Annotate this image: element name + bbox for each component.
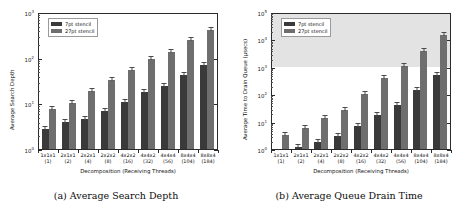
y-minor-tick bbox=[271, 69, 273, 70]
bar-27pt bbox=[88, 91, 95, 149]
legend-b: 7pt stencil 27pt stencil bbox=[281, 18, 331, 37]
error-bar-cap bbox=[421, 48, 426, 49]
error-bar-cap bbox=[322, 115, 327, 116]
bar-7pt bbox=[62, 122, 69, 149]
bar-7pt bbox=[141, 92, 148, 149]
y-minor-tick bbox=[271, 21, 273, 22]
y-minor-tick bbox=[38, 109, 40, 110]
bar-7pt bbox=[200, 65, 207, 149]
y-minor-tick bbox=[271, 45, 273, 46]
y-minor-tick bbox=[271, 96, 273, 97]
bar-7pt bbox=[354, 126, 361, 149]
y-tick-mark bbox=[271, 95, 275, 96]
y-minor-tick bbox=[271, 82, 273, 83]
bar-7pt bbox=[180, 75, 187, 149]
bar-group bbox=[430, 14, 450, 149]
error-bar-cap bbox=[102, 108, 107, 109]
y-minor-tick bbox=[271, 72, 273, 73]
bar-27pt bbox=[321, 118, 328, 149]
caption-a: (a) Average Search Depth bbox=[0, 190, 232, 201]
y-minor-tick bbox=[271, 60, 273, 61]
bar-7pt bbox=[81, 119, 88, 149]
error-bar-cap bbox=[283, 132, 288, 133]
y-minor-tick bbox=[38, 31, 40, 32]
y-minor-tick bbox=[271, 134, 273, 135]
legend-swatch-27pt-icon bbox=[51, 29, 62, 34]
legend-swatch-27pt-icon bbox=[284, 29, 295, 34]
y-minor-tick bbox=[38, 114, 40, 115]
y-minor-tick bbox=[38, 111, 40, 112]
y-minor-tick bbox=[38, 91, 40, 92]
caption-b: (b) Average Queue Drain Time bbox=[233, 190, 465, 201]
y-minor-tick bbox=[271, 124, 273, 125]
y-minor-tick bbox=[271, 142, 273, 143]
bar-27pt bbox=[282, 135, 289, 149]
y-minor-tick bbox=[271, 17, 273, 18]
error-bar-cap bbox=[181, 72, 186, 73]
bar-27pt bbox=[187, 40, 194, 149]
x-tick-mark bbox=[451, 150, 452, 153]
y-minor-tick bbox=[38, 118, 40, 119]
error-bar-cap bbox=[109, 77, 114, 78]
legend-label-27pt: 27pt stencil bbox=[298, 28, 327, 34]
y-minor-tick bbox=[38, 77, 40, 78]
y-minor-tick bbox=[271, 125, 273, 126]
bar-7pt bbox=[394, 105, 401, 149]
error-bar-cap bbox=[434, 72, 439, 73]
error-bar-cap bbox=[63, 119, 68, 120]
error-bar-cap bbox=[122, 99, 127, 100]
legend-item-27pt: 27pt stencil bbox=[284, 28, 327, 34]
y-minor-tick bbox=[38, 69, 40, 70]
bar-group bbox=[391, 14, 411, 149]
y-minor-tick bbox=[271, 106, 273, 107]
y-minor-tick bbox=[271, 16, 273, 17]
y-minor-tick bbox=[271, 79, 273, 80]
y-minor-tick bbox=[38, 123, 40, 124]
y-minor-tick bbox=[271, 129, 273, 130]
y-minor-tick bbox=[271, 103, 273, 104]
bar-27pt bbox=[420, 51, 427, 149]
bar-27pt bbox=[69, 103, 76, 149]
y-minor-tick bbox=[38, 45, 40, 46]
bar-27pt bbox=[168, 52, 175, 149]
bar-group bbox=[158, 14, 178, 149]
y-minor-tick bbox=[271, 14, 273, 15]
bar-7pt bbox=[413, 90, 420, 149]
y-tick-mark-right bbox=[447, 123, 451, 124]
y-minor-tick bbox=[38, 128, 40, 129]
error-bar-cap bbox=[402, 63, 407, 64]
error-bar-cap bbox=[188, 37, 193, 38]
bar-7pt bbox=[314, 142, 321, 149]
error-bar-cap bbox=[169, 49, 174, 50]
bar-7pt bbox=[374, 115, 381, 149]
bar-27pt bbox=[108, 80, 115, 149]
y-minor-tick bbox=[271, 137, 273, 138]
bar-7pt bbox=[121, 102, 128, 149]
y-minor-tick bbox=[38, 63, 40, 64]
y-minor-tick bbox=[38, 66, 40, 67]
error-bar-cap bbox=[50, 106, 55, 107]
y-minor-tick bbox=[271, 55, 273, 56]
legend-label-27pt: 27pt stencil bbox=[65, 28, 94, 34]
y-tick-mark-right bbox=[214, 59, 218, 60]
y-minor-tick bbox=[271, 32, 273, 33]
error-bar-cap bbox=[149, 56, 154, 57]
y-tick-label: 100 bbox=[237, 146, 267, 154]
y-minor-tick bbox=[271, 76, 273, 77]
error-bar-cap bbox=[342, 107, 347, 108]
y-tick-mark-right bbox=[447, 68, 451, 69]
y-tick-mark-right bbox=[447, 95, 451, 96]
bar-27pt bbox=[361, 94, 368, 149]
bar-group bbox=[138, 14, 158, 149]
figure-container: Average Search Depth 100101102103 7pt st… bbox=[0, 0, 465, 218]
y-minor-tick bbox=[38, 61, 40, 62]
bar-group bbox=[410, 14, 430, 149]
error-bar-cap bbox=[142, 89, 147, 90]
bar-27pt bbox=[148, 59, 155, 149]
y-tick-mark bbox=[38, 59, 42, 60]
legend-item-7pt: 7pt stencil bbox=[284, 21, 327, 27]
y-tick-label: 102 bbox=[4, 55, 34, 63]
y-minor-tick bbox=[38, 23, 40, 24]
bar-group bbox=[331, 14, 351, 149]
error-bar-cap bbox=[395, 102, 400, 103]
